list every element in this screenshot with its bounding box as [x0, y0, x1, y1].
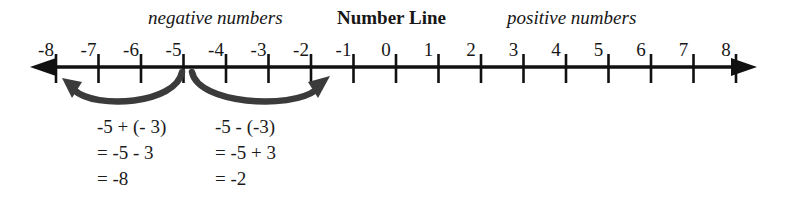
tick-label: 7 — [679, 40, 689, 60]
tick-label: -6 — [123, 40, 139, 60]
figure-title: Number Line — [337, 6, 446, 30]
tick-label: 4 — [551, 40, 561, 60]
tick-label: -5 — [166, 40, 182, 60]
operation-b-line-1: -5 - (-3) — [215, 114, 275, 139]
tick-label: 1 — [424, 40, 434, 60]
arc-minus-three — [74, 72, 182, 102]
negative-numbers-caption: negative numbers — [148, 6, 283, 30]
operation-b-line-2: = -5 + 3 — [215, 140, 276, 165]
operation-a-line-2: = -5 - 3 — [97, 140, 154, 165]
tick-label: -8 — [38, 40, 54, 60]
arc-plus-three — [192, 72, 316, 102]
operation-arcs — [0, 66, 787, 116]
arcs-svg — [0, 66, 787, 116]
tick-label: 8 — [721, 40, 731, 60]
tick-label: -2 — [293, 40, 309, 60]
tick-label: -7 — [81, 40, 97, 60]
tick-label: -1 — [336, 40, 352, 60]
tick-label: 2 — [466, 40, 476, 60]
operation-a-line-1: -5 + (- 3) — [97, 114, 166, 139]
tick-label: 6 — [636, 40, 646, 60]
number-line-figure: negative numbers Number Line positive nu… — [0, 0, 787, 208]
tick-label: -3 — [251, 40, 267, 60]
tick-label: 0 — [381, 40, 391, 60]
positive-numbers-caption: positive numbers — [507, 6, 636, 30]
operation-b-line-3: = -2 — [215, 166, 246, 191]
tick-label: -4 — [208, 40, 224, 60]
operation-a-line-3: = -8 — [97, 166, 128, 191]
tick-label: 3 — [509, 40, 519, 60]
tick-label: 5 — [594, 40, 604, 60]
